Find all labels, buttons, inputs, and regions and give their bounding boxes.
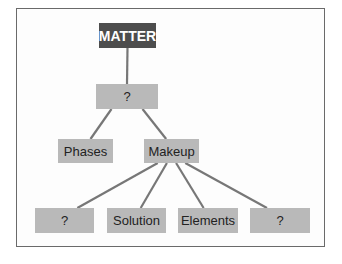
node-unknown-2: ? <box>35 208 94 233</box>
node-unknown-3: ? <box>250 208 310 233</box>
node-elements: Elements <box>178 208 238 233</box>
link-matter-q1 <box>127 48 128 84</box>
node-matter: MATTER <box>99 23 156 48</box>
node-makeup: Makeup <box>144 139 199 163</box>
node-solution: Solution <box>107 208 166 233</box>
node-phases: Phases <box>58 139 113 163</box>
node-unknown-1: ? <box>96 84 158 109</box>
link-q1-makeup <box>143 109 167 139</box>
link-q1-phases <box>90 109 111 139</box>
link-makeup-q3 <box>185 163 267 208</box>
